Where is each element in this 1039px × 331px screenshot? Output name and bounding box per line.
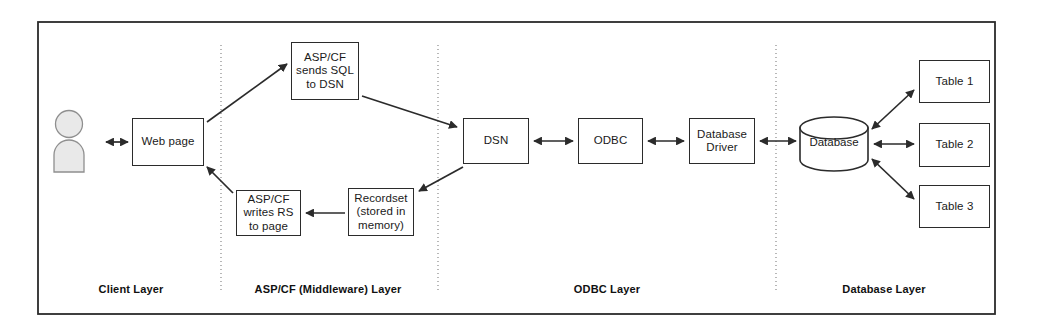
connector-database-to-table3	[872, 159, 914, 199]
layer-label-client: Client Layer	[31, 283, 231, 295]
connector-dsn-to-recordset	[419, 167, 463, 191]
user-actor-icon	[54, 111, 84, 173]
node-asp-writes-rs-label: ASP/CFwrites RSto page	[237, 193, 300, 234]
node-database-driver[interactable]: DatabaseDriver	[689, 118, 755, 164]
node-asp-sends-sql[interactable]: ASP/CFsends SQLto DSN	[291, 42, 359, 100]
node-table-1-label: Table 1	[920, 75, 989, 89]
node-recordset-label: Recordset(stored inmemory)	[349, 192, 413, 233]
connector-aspwrite-to-webpage	[207, 167, 233, 193]
connector-database-to-table1	[872, 90, 914, 129]
layer-label-odbc: ODBC Layer	[507, 283, 707, 295]
node-table-3-label: Table 3	[920, 200, 989, 214]
node-web-page-label: Web page	[133, 135, 203, 149]
database-cylinder-icon	[800, 117, 868, 171]
connector-webpage-to-aspsend	[207, 64, 287, 122]
node-asp-writes-rs[interactable]: ASP/CFwrites RSto page	[236, 190, 301, 236]
node-table-2[interactable]: Table 2	[919, 123, 990, 167]
node-dsn[interactable]: DSN	[463, 118, 529, 164]
node-recordset[interactable]: Recordset(stored inmemory)	[348, 188, 414, 236]
diagram-canvas: Web page ASP/CFsends SQLto DSN ASP/CFwri…	[0, 0, 1039, 331]
connector-aspsend-to-dsn	[362, 96, 457, 127]
layer-label-middleware: ASP/CF (Middleware) Layer	[228, 283, 428, 295]
node-dsn-label: DSN	[464, 134, 528, 148]
node-table-3[interactable]: Table 3	[919, 185, 990, 228]
node-table-2-label: Table 2	[920, 138, 989, 152]
node-odbc[interactable]: ODBC	[578, 118, 643, 164]
node-odbc-label: ODBC	[579, 134, 642, 148]
node-table-1[interactable]: Table 1	[919, 60, 990, 103]
layer-label-database: Database Layer	[784, 283, 984, 295]
node-database-driver-label: DatabaseDriver	[690, 128, 754, 155]
node-web-page[interactable]: Web page	[132, 118, 204, 166]
node-asp-sends-sql-label: ASP/CFsends SQLto DSN	[292, 51, 358, 92]
